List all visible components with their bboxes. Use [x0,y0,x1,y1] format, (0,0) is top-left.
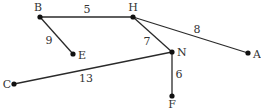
node-n-dot [169,49,174,54]
node-h-label: H [128,1,138,14]
edge-c-n [14,52,172,84]
edge-weight-n-f: 6 [176,68,183,81]
node-c-dot [11,81,16,86]
edge-h-n [133,17,172,52]
node-f-label: F [168,98,176,110]
node-h-dot [130,14,135,19]
node-b-dot [37,14,42,19]
edge-weight-h-n: 7 [144,35,151,48]
edge-weight-b-e: 9 [46,34,53,47]
weighted-graph-diagram: 5987136 BHENACF [0,0,261,110]
node-a-label: A [252,48,261,61]
node-a-dot [245,50,250,55]
node-e-dot [70,51,75,56]
nodes-group [11,14,250,98]
edge-weight-h-a: 8 [194,23,201,36]
node-e-label: E [78,49,86,62]
edge-weight-b-h: 5 [84,3,91,16]
node-n-label: N [177,46,187,59]
node-c-label: C [3,78,11,91]
edge-weight-c-n: 13 [79,72,93,85]
node-b-label: B [34,1,42,14]
edges-group [14,17,248,96]
